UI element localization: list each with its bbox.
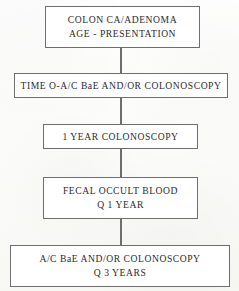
node-line: TIME O-A/C BaE AND/OR COLONOSCOPY — [21, 79, 222, 93]
flowchart-node-fecal-occult-blood: FECAL OCCULT BLOOD Q 1 YEAR — [43, 177, 198, 219]
node-line: AGE - PRESENTATION — [69, 27, 176, 41]
node-line: 1 YEAR COLONOSCOPY — [62, 130, 178, 144]
node-line: COLON CA/ADENOMA — [68, 13, 177, 27]
flowchart-node-ac-bae-colonoscopy-q3y: A/C BaE AND/OR COLONOSCOPY Q 3 YEARS — [10, 245, 230, 287]
node-line: A/C BaE AND/OR COLONOSCOPY — [39, 252, 200, 266]
flowchart-node-one-year-colonoscopy: 1 YEAR COLONOSCOPY — [43, 124, 198, 149]
node-line: Q 1 YEAR — [97, 198, 144, 212]
flowchart-node-time-0-bae-colonoscopy: TIME O-A/C BaE AND/OR COLONOSCOPY — [14, 73, 228, 98]
connector-node4-to-node5 — [120, 219, 122, 245]
flowchart-node-colon-ca-adenoma: COLON CA/ADENOMA AGE - PRESENTATION — [45, 6, 200, 48]
node-line: FECAL OCCULT BLOOD — [63, 184, 178, 198]
connector-node2-to-node3 — [120, 98, 122, 124]
connector-node1-to-node2 — [120, 48, 122, 73]
connector-node3-to-node4 — [120, 149, 122, 177]
node-line: Q 3 YEARS — [94, 266, 147, 280]
flowchart-diagram: COLON CA/ADENOMA AGE - PRESENTATION TIME… — [0, 0, 239, 291]
